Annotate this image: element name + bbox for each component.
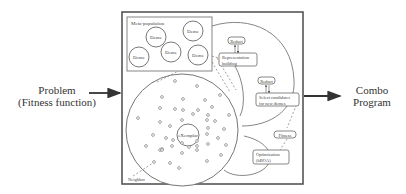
- optimization-box: Optimization (hBOA): [253, 150, 289, 164]
- fitness-box: Fitness: [274, 131, 296, 138]
- svg-text:eXemplar: eXemplar: [178, 133, 198, 138]
- output-label-line1: Combo: [344, 84, 400, 96]
- input-label-line1: Problem: [12, 84, 102, 96]
- representation-building-box: Representation building: [219, 53, 257, 66]
- svg-text:Optimization: Optimization: [256, 152, 280, 157]
- svg-text:building: building: [222, 61, 238, 66]
- deme-5: Deme: [188, 45, 208, 65]
- deme-1: Deme: [146, 27, 166, 47]
- svg-text:Deme: Deme: [165, 50, 178, 55]
- svg-text:Reduct: Reduct: [260, 79, 273, 84]
- deme-3: Deme: [129, 47, 149, 67]
- metapopulation-title: Meta-population: [131, 21, 165, 26]
- svg-text:Representation: Representation: [222, 55, 250, 60]
- svg-text:Deme: Deme: [150, 35, 163, 40]
- deme-4: Deme: [161, 42, 181, 62]
- deme-2: Deme: [183, 21, 203, 41]
- svg-text:Fitness: Fitness: [279, 133, 292, 138]
- input-label: Problem (Fitness function): [12, 84, 102, 108]
- svg-text:(hBOA): (hBOA): [256, 158, 271, 163]
- svg-text:Deme: Deme: [187, 29, 200, 34]
- svg-text:Reduct: Reduct: [230, 39, 243, 44]
- output-label-line2: Program: [344, 96, 400, 108]
- reduct-box-1: Reduct: [228, 37, 245, 44]
- select-candidates-box: Select candidates for new demes: [256, 93, 299, 106]
- exemplar: eXemplar: [177, 124, 199, 146]
- reduct-box-2: Reduct: [258, 77, 275, 84]
- input-label-line2: (Fitness function): [12, 96, 102, 108]
- svg-text:for new demes: for new demes: [259, 101, 286, 106]
- svg-text:Select candidates: Select candidates: [259, 95, 290, 100]
- output-label: Combo Program: [344, 84, 400, 108]
- svg-text:Deme: Deme: [133, 55, 146, 60]
- svg-text:Deme: Deme: [192, 53, 205, 58]
- neighbor-label: Neighbor: [128, 177, 145, 182]
